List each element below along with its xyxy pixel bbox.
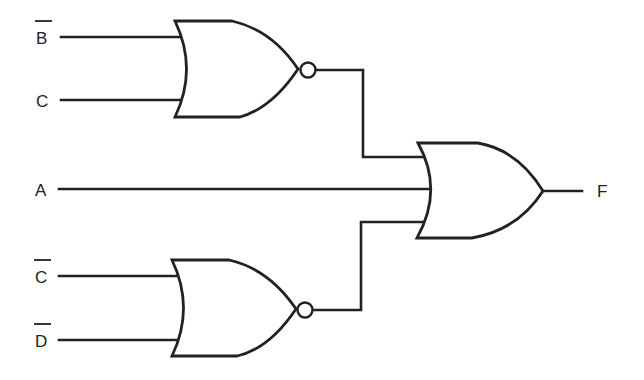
input-label-b-bar: B [35, 21, 52, 48]
label-c: C [35, 268, 47, 287]
wire-nor-top-to-or [316, 70, 430, 157]
or-gate-output [417, 143, 543, 238]
input-label-c-bar: C [34, 260, 51, 287]
logic-circuit-diagram: B C A C D F [0, 0, 644, 380]
input-label-c: C [36, 92, 48, 111]
label-b: B [36, 29, 47, 48]
input-label-d-bar: D [34, 324, 51, 351]
nor-top-inversion-bubble [301, 63, 316, 78]
output-label-f: F [597, 182, 607, 201]
input-label-a: A [35, 181, 47, 200]
nor-gate-bottom [172, 260, 296, 356]
nor-bottom-inversion-bubble [298, 303, 313, 318]
label-d: D [35, 332, 47, 351]
wire-nor-bottom-to-or [313, 222, 430, 310]
nor-gate-top [175, 21, 298, 117]
